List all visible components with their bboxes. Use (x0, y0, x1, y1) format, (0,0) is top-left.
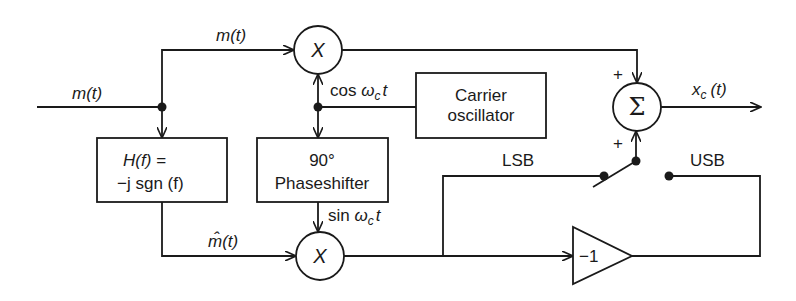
cos-label: cos ωct (330, 81, 388, 103)
lsb-usb-selector-switch (593, 157, 674, 188)
inverter-block: −1 (573, 227, 632, 284)
top-multiplier-symbol: X (310, 39, 325, 61)
phaseshifter-line2: Phaseshifter (275, 174, 370, 193)
input-signal-line: m(t) (37, 84, 162, 107)
bottom-multiplier: X (296, 232, 344, 280)
phase-shifter-block: 90° Phaseshifter (257, 138, 388, 202)
hilbert-line2: −j sgn (f) (117, 174, 184, 193)
bottom-multiplier-symbol: X (312, 245, 327, 267)
usb-path (632, 176, 760, 256)
switch-arm (593, 161, 636, 187)
hilbert-output-label: m̂(t) (208, 231, 238, 251)
hilbert-output-path: m̂(t) (162, 202, 296, 256)
summer: Σ (613, 83, 661, 131)
phaseshifter-line1: 90° (309, 151, 335, 170)
ssb-modulator-diagram: m(t) m(t) H(f) = −j sgn (f) m̂(t) X cos … (0, 0, 796, 301)
top-multiplier: X (294, 26, 342, 74)
carrier-line1: Carrier (455, 86, 507, 105)
sin-label: sin ωct (328, 206, 382, 228)
hilbert-transform-block: H(f) = −j sgn (f) (97, 138, 227, 202)
output-label: xc(t) (691, 80, 727, 102)
carrier-line2: oscillator (447, 106, 514, 125)
summer-top-sign: + (613, 65, 623, 84)
lsb-label: LSB (502, 151, 534, 170)
summer-bottom-sign: + (613, 134, 623, 153)
carrier-oscillator-block: Carrier oscillator (416, 73, 546, 138)
input-label: m(t) (72, 84, 102, 103)
hilbert-line1: H(f) = (123, 151, 166, 170)
top-path-label: m(t) (216, 26, 246, 45)
top-path: m(t) (162, 26, 294, 107)
summer-symbol: Σ (629, 93, 646, 121)
inverter-label: −1 (579, 247, 598, 266)
usb-label: USB (690, 151, 725, 170)
